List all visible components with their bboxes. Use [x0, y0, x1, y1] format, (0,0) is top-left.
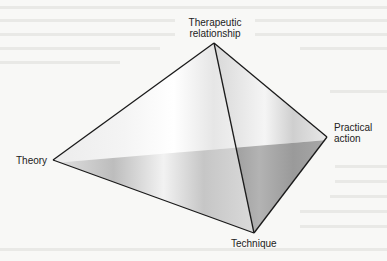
pyramid-diagram: [0, 0, 387, 261]
vertex-label-therapeutic-relationship: Therapeutic relationship: [182, 17, 248, 39]
vertex-label-practical-action: Practical action: [334, 122, 372, 144]
vertex-label-technique: Technique: [231, 238, 277, 249]
label-line: Practical: [334, 122, 372, 133]
label-line: Therapeutic: [182, 17, 248, 28]
vertex-label-theory: Theory: [16, 155, 47, 166]
label-line: relationship: [182, 28, 248, 39]
diagram-canvas: Therapeutic relationship Practical actio…: [0, 0, 387, 261]
label-line: action: [334, 133, 372, 144]
